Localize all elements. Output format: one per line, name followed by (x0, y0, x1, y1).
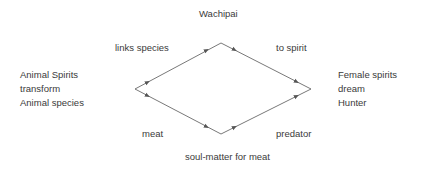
node-left-label: Animal Spirits transform Animal species (20, 68, 84, 110)
edge-label-bottom-right: predator (276, 127, 311, 141)
node-right-label: Female spirits dream Hunter (338, 68, 397, 110)
edge-label-top-right: to spirit (276, 41, 307, 55)
node-right-line-3: Hunter (338, 96, 397, 110)
node-top-label: Wachipai (199, 7, 238, 21)
node-right-line-1: Female spirits (338, 68, 397, 82)
node-left-line-2: transform (20, 82, 84, 96)
node-right-line-2: dream (338, 82, 397, 96)
node-bottom-label: soul-matter for meat (185, 150, 270, 164)
arrow-bottom-left (148, 96, 207, 127)
node-left-line-1: Animal Spirits (20, 68, 84, 82)
edge-label-top-left: links species (115, 41, 169, 55)
arrow-bottom-right (235, 96, 297, 127)
diamond-outline (135, 43, 311, 134)
diamond-diagram: Wachipai links species to spirit meat pr… (0, 0, 422, 169)
node-left-line-3: Animal species (20, 96, 84, 110)
edge-label-bottom-left: meat (142, 127, 163, 141)
